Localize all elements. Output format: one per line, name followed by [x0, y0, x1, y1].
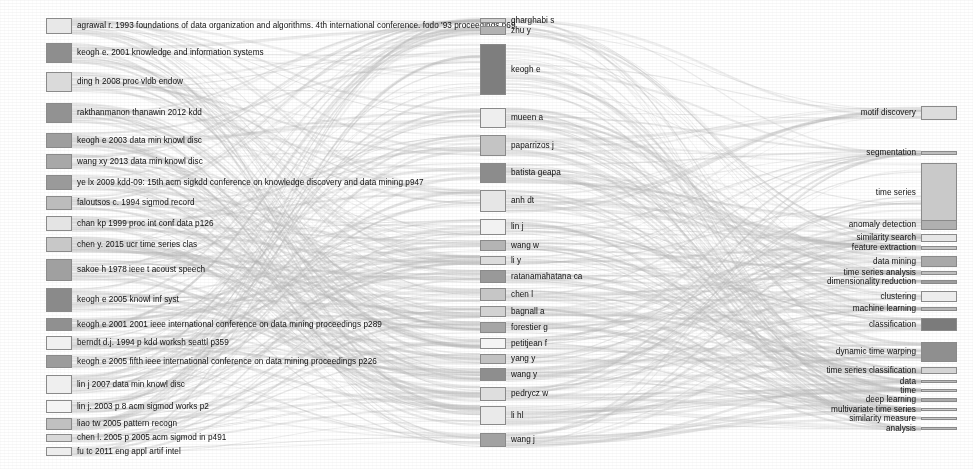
node-reference-faloutsos-c-1994-sigmod-record[interactable]	[46, 196, 72, 210]
node-keyword-time-series-analysis[interactable]	[921, 271, 957, 275]
node-label-author-chen-l: chen l	[511, 290, 533, 299]
node-reference-chan-kp-1999-proc-int-conf-data-p126[interactable]	[46, 216, 72, 231]
node-label-author-li-y: li y	[511, 256, 521, 265]
node-author-gharghabi-s[interactable]	[480, 18, 506, 23]
node-keyword-classification[interactable]	[921, 318, 957, 331]
node-reference-agrawal-r-1993-foundations-of-data-organization-[interactable]	[46, 18, 72, 34]
node-label-reference-keogh-e-2005-fifth-ieee-international-conference: keogh e 2005 fifth ieee international co…	[77, 357, 377, 366]
node-author-wang-w[interactable]	[480, 240, 506, 251]
node-reference-liao-tw-2005-pattern-recogn[interactable]	[46, 418, 72, 430]
node-author-batista-geapa[interactable]	[480, 163, 506, 183]
node-keyword-data[interactable]	[921, 380, 957, 383]
node-label-reference-fu-tc-2011-eng-appl-artif-intel: fu tc 2011 eng appl artif intel	[77, 447, 181, 456]
node-keyword-time[interactable]	[921, 389, 957, 392]
node-label-reference-ye-lx-2009-kdd-09-15th-acm-sigkdd-conference-on-: ye lx 2009 kdd-09: 15th acm sigkdd confe…	[77, 178, 424, 187]
node-reference-berndt-d-j-1994-p-kdd-worksh-seattl-p359[interactable]	[46, 336, 72, 350]
node-label-reference-agrawal-r-1993-foundations-of-data-organization-: agrawal r. 1993 foundations of data orga…	[77, 21, 516, 30]
node-author-mueen-a[interactable]	[480, 108, 506, 128]
node-reference-chen-l-2005-p-2005-acm-sigmod-in-p491[interactable]	[46, 434, 72, 442]
node-label-author-keogh-e: keogh e	[511, 65, 541, 74]
node-label-keyword-data-mining: data mining	[873, 257, 916, 266]
node-author-petitjean-f[interactable]	[480, 338, 506, 349]
node-keyword-similarity-measure[interactable]	[921, 417, 957, 420]
node-label-keyword-deep-learning: deep learning	[866, 395, 916, 404]
node-author-li-y[interactable]	[480, 256, 506, 265]
node-reference-lin-j-2003-p-8-acm-sigmod-works-p2[interactable]	[46, 400, 72, 413]
node-reference-wang-xy-2013-data-min-knowl-disc[interactable]	[46, 154, 72, 169]
node-reference-rakthanmanon-thanawin-2012-kdd[interactable]	[46, 103, 72, 123]
node-label-keyword-data: data	[900, 377, 916, 386]
node-author-keogh-e[interactable]	[480, 44, 506, 95]
node-label-keyword-motif-discovery: motif discovery	[861, 108, 916, 117]
node-author-bagnall-a[interactable]	[480, 306, 506, 317]
node-keyword-clustering[interactable]	[921, 291, 957, 302]
node-label-keyword-anomaly-detection: anomaly detection	[849, 220, 916, 229]
node-keyword-feature-extraction[interactable]	[921, 246, 957, 250]
node-label-reference-chan-kp-1999-proc-int-conf-data-p126: chan kp 1999 proc int conf data p126	[77, 219, 214, 228]
node-label-reference-sakoe-h-1978-ieee-t-acoust-speech: sakoe h 1978 ieee t acoust speech	[77, 265, 205, 274]
node-label-reference-faloutsos-c-1994-sigmod-record: faloutsos c. 1994 sigmod record	[77, 198, 195, 207]
node-author-zhu-y[interactable]	[480, 26, 506, 35]
node-label-author-bagnall-a: bagnall a	[511, 307, 545, 316]
node-label-reference-keogh-e-2003-data-min-knowl-disc: keogh e 2003 data min knowl disc	[77, 136, 202, 145]
node-author-yang-y[interactable]	[480, 354, 506, 364]
node-label-author-anh-dt: anh dt	[511, 196, 534, 205]
node-keyword-similarity-search[interactable]	[921, 234, 957, 242]
node-reference-keogh-e-2001-knowledge-and-information-systems[interactable]	[46, 43, 72, 63]
node-keyword-analysis[interactable]	[921, 427, 957, 430]
node-reference-ding-h-2008-proc-vldb-endow[interactable]	[46, 72, 72, 92]
node-label-keyword-classification: classification	[869, 320, 916, 329]
node-label-keyword-machine-learning: machine learning	[853, 304, 916, 313]
node-keyword-anomaly-detection[interactable]	[921, 220, 957, 230]
node-label-reference-lin-j-2003-p-8-acm-sigmod-works-p2: lin j. 2003 p 8 acm sigmod works p2	[77, 402, 209, 411]
node-keyword-multivariate-time-series[interactable]	[921, 408, 957, 411]
node-label-reference-ding-h-2008-proc-vldb-endow: ding h 2008 proc vldb endow	[77, 77, 183, 86]
node-keyword-dynamic-time-warping[interactable]	[921, 342, 957, 362]
node-label-reference-lin-j-2007-data-min-knowl-disc: lin j 2007 data min knowl disc	[77, 380, 185, 389]
node-label-author-mueen-a: mueen a	[511, 113, 543, 122]
node-keyword-deep-learning[interactable]	[921, 398, 957, 402]
node-label-author-ratanamahatana-ca: ratanamahatana ca	[511, 272, 582, 281]
node-label-keyword-dynamic-time-warping: dynamic time warping	[836, 347, 916, 356]
node-label-author-wang-y: wang y	[511, 370, 537, 379]
node-label-reference-chen-l-2005-p-2005-acm-sigmod-in-p491: chen l. 2005 p 2005 acm sigmod in p491	[77, 433, 226, 442]
node-keyword-time-series[interactable]	[921, 163, 957, 223]
node-reference-lin-j-2007-data-min-knowl-disc[interactable]	[46, 375, 72, 394]
node-keyword-time-series-classification[interactable]	[921, 367, 957, 374]
node-keyword-machine-learning[interactable]	[921, 307, 957, 311]
node-label-author-paparrizos-j: paparrizos j	[511, 141, 554, 150]
node-label-author-wang-w: wang w	[511, 241, 539, 250]
node-author-chen-l[interactable]	[480, 288, 506, 301]
node-reference-keogh-e-2003-data-min-knowl-disc[interactable]	[46, 133, 72, 148]
node-label-keyword-segmentation: segmentation	[866, 148, 916, 157]
node-label-author-li-hl: li hl	[511, 411, 524, 420]
node-label-keyword-clustering: clustering	[880, 292, 916, 301]
node-reference-sakoe-h-1978-ieee-t-acoust-speech[interactable]	[46, 259, 72, 281]
node-label-author-forestier-g: forestier g	[511, 323, 548, 332]
node-author-paparrizos-j[interactable]	[480, 135, 506, 156]
node-reference-chen-y-2015-ucr-time-series-clas[interactable]	[46, 237, 72, 252]
node-label-reference-keogh-e-2001-2001-ieee-international-conference-: keogh e 2001 2001 ieee international con…	[77, 320, 382, 329]
node-author-anh-dt[interactable]	[480, 190, 506, 212]
node-reference-ye-lx-2009-kdd-09-15th-acm-sigkdd-conference-on-[interactable]	[46, 175, 72, 190]
node-author-wang-j[interactable]	[480, 433, 506, 447]
node-author-pedrycz-w[interactable]	[480, 387, 506, 401]
node-author-lin-j[interactable]	[480, 219, 506, 235]
node-reference-fu-tc-2011-eng-appl-artif-intel[interactable]	[46, 447, 72, 456]
node-author-ratanamahatana-ca[interactable]	[480, 270, 506, 283]
node-label-author-yang-y: yang y	[511, 354, 535, 363]
node-label-author-wang-j: wang j	[511, 435, 535, 444]
node-keyword-dimensionality-reduction[interactable]	[921, 280, 957, 284]
node-author-wang-y[interactable]	[480, 368, 506, 381]
node-reference-keogh-e-2001-2001-ieee-international-conference-[interactable]	[46, 318, 72, 331]
node-label-reference-keogh-e-2001-knowledge-and-information-systems: keogh e. 2001 knowledge and information …	[77, 48, 264, 57]
node-label-author-batista-geapa: batista geapa	[511, 168, 561, 177]
node-reference-keogh-e-2005-knowl-inf-syst[interactable]	[46, 288, 72, 312]
node-keyword-segmentation[interactable]	[921, 151, 957, 155]
node-author-li-hl[interactable]	[480, 406, 506, 425]
node-author-forestier-g[interactable]	[480, 322, 506, 333]
node-label-keyword-multivariate-time-series: multivariate time series	[831, 405, 916, 414]
node-keyword-data-mining[interactable]	[921, 256, 957, 267]
node-keyword-motif-discovery[interactable]	[921, 106, 957, 120]
node-reference-keogh-e-2005-fifth-ieee-international-conference[interactable]	[46, 355, 72, 368]
